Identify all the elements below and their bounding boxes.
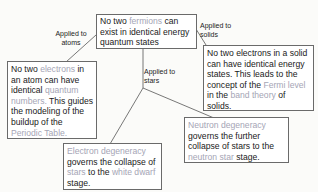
highlighted-term: Fermi level [263,80,305,90]
highlighted-term: neutron star [188,152,234,162]
text-run: No two [100,16,129,26]
text-run: governs the further collapse of stars to… [188,131,274,152]
highlighted-term: Neutron degeneracy [188,120,266,130]
highlighted-term: Electron degeneracy [67,146,146,156]
edge-label-solids: Applied to solids [200,22,240,39]
highlighted-term: stars [67,167,86,177]
edge-label-stars: Applied to stars [144,68,180,85]
solids-box: No two electrons in a solid can have ide… [203,45,314,111]
highlighted-term: Periodic Table. [11,128,67,138]
text-run: stage. [67,178,90,188]
text-run: to the [86,167,112,177]
highlighted-term: band theory [230,90,275,100]
highlighted-term: fermions [129,16,162,26]
edge-label-atoms: Applied to atoms [50,30,92,47]
highlighted-term: white dwarf [112,167,155,177]
text-run: No two [11,64,40,74]
text-run: governs the collapse of [67,157,155,167]
root-concept-box: No two fermions can exist in identical e… [96,14,197,49]
text-run: in the [207,90,230,100]
white-dwarf-box: Electron degeneracy governs the collapse… [63,143,162,190]
highlighted-term: electrons [40,64,75,74]
neutron-star-box: Neutron degeneracy governs the further c… [184,117,289,163]
atoms-box: No two electrons in an atom can have ide… [7,61,97,139]
text-run: stage. [234,152,260,162]
